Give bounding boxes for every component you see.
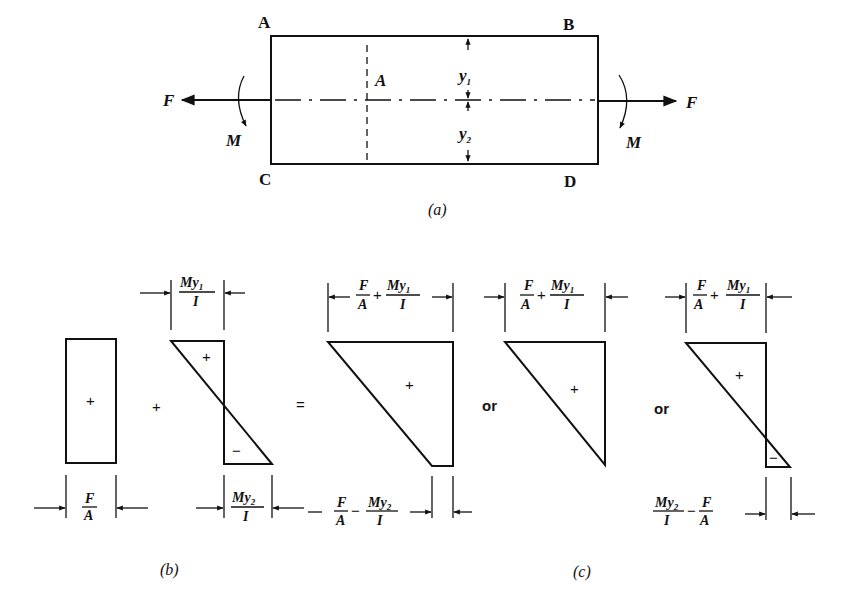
svg-text:My2: My2 [654, 495, 679, 512]
svg-text:My1: My1 [386, 278, 410, 295]
svg-text:I: I [739, 297, 746, 312]
svg-text:I: I [563, 297, 570, 312]
bending-top-sign: + [202, 348, 211, 365]
plus-operator: + [152, 398, 161, 415]
svg-text:−: − [351, 502, 360, 519]
case3-bottom-fraction: My2 I − F A [653, 495, 713, 528]
svg-text:My1: My1 [179, 275, 203, 292]
svg-text:A: A [699, 513, 709, 528]
caption-b: (b) [160, 561, 179, 579]
y2-label: y2 [457, 124, 472, 145]
svg-text:F: F [696, 278, 707, 293]
svg-text:A: A [83, 508, 93, 523]
case3-bottom-sign: − [769, 449, 778, 466]
svg-text:A: A [357, 297, 367, 312]
right-force-label: F [685, 93, 698, 112]
case1-top-fraction: F A + My1 I [356, 278, 420, 312]
corner-label-b: B [563, 15, 574, 34]
case1-sign: + [405, 376, 414, 393]
axial-sign: + [86, 392, 95, 409]
svg-text:My1: My1 [550, 278, 574, 295]
combined-stress-triangle [505, 342, 605, 465]
bend-top-fraction: My1 I [179, 275, 215, 309]
left-force-label: F [162, 91, 175, 110]
bend-bottom-fraction: My2 I [231, 490, 264, 524]
caption-c: (c) [573, 563, 591, 581]
svg-text:+: + [537, 286, 546, 303]
svg-text:F: F [84, 491, 95, 506]
svg-text:F: F [358, 278, 369, 293]
case1-bottom-fraction: F A − My2 I [334, 495, 398, 528]
figure-c: = + F A + My1 I F A − My2 I [296, 278, 815, 581]
svg-text:A: A [520, 297, 530, 312]
svg-text:A: A [693, 297, 703, 312]
svg-text:−: − [687, 502, 696, 519]
svg-text:My1: My1 [726, 278, 750, 295]
left-moment-label: M [225, 131, 242, 150]
combined-stress-diagram: A B C D A y1 y2 F M F M (a) [0, 0, 844, 610]
svg-text:F: F [336, 495, 347, 510]
axial-fraction: F A [82, 491, 97, 523]
svg-text:I: I [242, 509, 249, 524]
svg-text:I: I [663, 513, 670, 528]
case3-top-sign: + [735, 366, 744, 383]
corner-label-d: D [564, 172, 576, 191]
svg-text:I: I [192, 294, 199, 309]
svg-text:+: + [710, 286, 719, 303]
bending-stress-diagram [171, 341, 272, 464]
svg-text:A: A [335, 513, 345, 528]
svg-text:I: I [399, 297, 406, 312]
y1-label: y1 [457, 66, 471, 87]
equals-operator: = [296, 396, 305, 413]
figure-a: A B C D A y1 y2 F M F M (a) [162, 13, 698, 219]
corner-label-c: C [259, 170, 271, 189]
svg-text:F: F [523, 278, 534, 293]
right-moment-label: M [625, 133, 642, 152]
area-label: A [374, 71, 386, 90]
caption-a: (a) [428, 201, 447, 219]
svg-text:I: I [376, 513, 383, 528]
or-separator-2: or [654, 400, 669, 417]
or-separator-1: or [482, 397, 497, 414]
svg-text:My2: My2 [231, 490, 256, 507]
svg-text:F: F [701, 495, 712, 510]
svg-text:+: + [373, 286, 382, 303]
case2-sign: + [570, 380, 579, 397]
svg-text:My2: My2 [367, 495, 392, 512]
corner-label-a: A [258, 13, 271, 32]
figure-b: + + + − My1 I F A My2 [34, 275, 304, 579]
case2-top-fraction: F A + My1 I [520, 278, 584, 312]
case3-top-fraction: F A + My1 I [693, 278, 760, 312]
combined-stress-trapezoid [328, 342, 453, 466]
bending-bottom-sign: − [232, 442, 241, 459]
